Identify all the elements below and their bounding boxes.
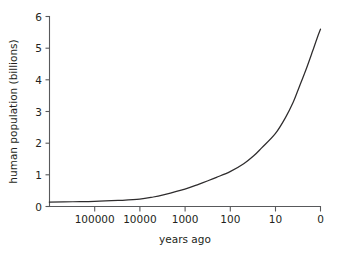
x-tick-label-1000: 1000 (172, 213, 199, 225)
y-tick-label-5: 5 (35, 42, 42, 54)
y-tick-label-0: 0 (35, 201, 42, 213)
population-growth-chart: 6 5 4 3 2 1 0 100000 10000 1000 100 10 0 (0, 0, 338, 255)
y-tick-label-1: 1 (35, 169, 42, 181)
y-axis-title: human population (billions) (7, 39, 19, 183)
x-axis-title: years ago (159, 233, 211, 245)
x-tick-label-10000: 10000 (123, 213, 156, 225)
y-tick-label-6: 6 (35, 11, 42, 23)
x-tick-label-10: 10 (269, 213, 282, 225)
x-tick-label-100: 100 (220, 213, 240, 225)
x-tick-label-0: 0 (317, 213, 324, 225)
y-tick-label-2: 2 (35, 137, 42, 149)
x-tick-label-100000: 100000 (75, 213, 115, 225)
y-tick-label-4: 4 (35, 74, 42, 86)
y-tick-label-3: 3 (35, 106, 42, 118)
chart-canvas: 6 5 4 3 2 1 0 100000 10000 1000 100 10 0 (0, 0, 338, 255)
chart-background (0, 0, 338, 255)
